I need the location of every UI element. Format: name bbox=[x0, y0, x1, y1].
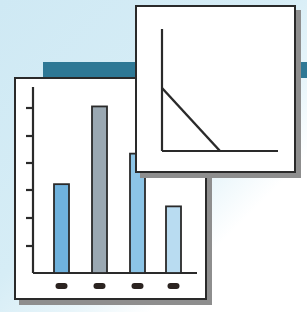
category-marker bbox=[56, 283, 68, 289]
line-chart-card bbox=[135, 5, 296, 173]
category-marker bbox=[94, 283, 106, 289]
line-chart-axes bbox=[162, 29, 278, 151]
line-series bbox=[162, 88, 220, 151]
category-marker bbox=[168, 283, 180, 289]
line-chart bbox=[137, 7, 294, 171]
line-chart-series bbox=[162, 88, 220, 151]
category-markers bbox=[56, 283, 180, 289]
bar bbox=[166, 206, 181, 273]
bar bbox=[54, 184, 69, 273]
bar bbox=[92, 106, 107, 273]
category-marker bbox=[132, 283, 144, 289]
